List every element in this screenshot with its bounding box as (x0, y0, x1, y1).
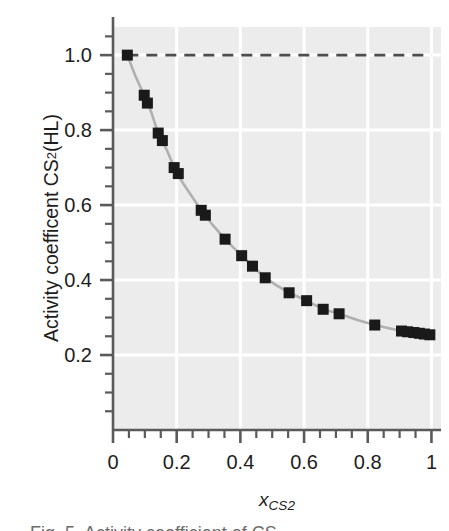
x-tick-label: 0.4 (210, 452, 270, 472)
x-tick-label-group: 00.20.40.60.81 (0, 0, 449, 531)
x-tick-label: 0.8 (338, 452, 398, 472)
x-axis-title-subscript: CS (269, 498, 288, 513)
x-tick-label: 1 (401, 452, 449, 472)
x-axis-title-subscript-digit: 2 (287, 498, 295, 513)
chart-figure: Activity coefficent CS2 (HL) 0.20.40.60.… (0, 0, 449, 531)
x-tick-label: 0.6 (274, 452, 334, 472)
x-tick-label: 0 (83, 452, 143, 472)
x-axis-title: xCS2 (113, 489, 441, 513)
x-tick-label: 0.2 (147, 452, 207, 472)
x-axis-title-symbol: x (259, 489, 269, 510)
caption-sliver: Fig. 5. Activity coefficient of CS (30, 523, 350, 531)
